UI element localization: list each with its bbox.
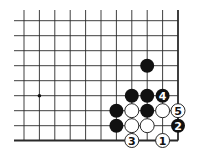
black-stone xyxy=(125,89,139,103)
black-stone xyxy=(140,59,154,73)
black-stone: 4 xyxy=(156,89,170,103)
black-stone xyxy=(140,89,154,103)
star-points xyxy=(38,94,42,98)
go-board: 45231 xyxy=(0,0,199,155)
move-number: 1 xyxy=(159,135,167,148)
move-number: 4 xyxy=(159,90,167,103)
black-stone-icon xyxy=(109,119,123,133)
move-number: 3 xyxy=(128,135,136,148)
white-stone-icon xyxy=(156,104,170,118)
white-stone-icon xyxy=(125,119,139,133)
black-stone-icon xyxy=(140,89,154,103)
black-stone-icon xyxy=(140,104,154,118)
white-stone xyxy=(140,119,154,133)
white-stone: 5 xyxy=(171,104,185,118)
move-number: 5 xyxy=(174,105,182,118)
black-stone xyxy=(109,104,123,118)
star-point xyxy=(38,94,42,98)
white-stone-icon xyxy=(140,119,154,133)
black-stone-icon xyxy=(125,89,139,103)
black-stone xyxy=(109,119,123,133)
black-stone xyxy=(140,104,154,118)
black-stone: 2 xyxy=(171,119,185,133)
black-stone-icon xyxy=(140,59,154,73)
white-stone xyxy=(125,104,139,118)
white-stone: 1 xyxy=(156,134,170,148)
white-stone xyxy=(156,104,170,118)
white-stone-icon xyxy=(125,104,139,118)
grid-lines xyxy=(14,10,178,141)
move-number: 2 xyxy=(174,120,182,133)
black-stone-icon xyxy=(109,104,123,118)
white-stone xyxy=(125,119,139,133)
white-stone: 3 xyxy=(125,134,139,148)
